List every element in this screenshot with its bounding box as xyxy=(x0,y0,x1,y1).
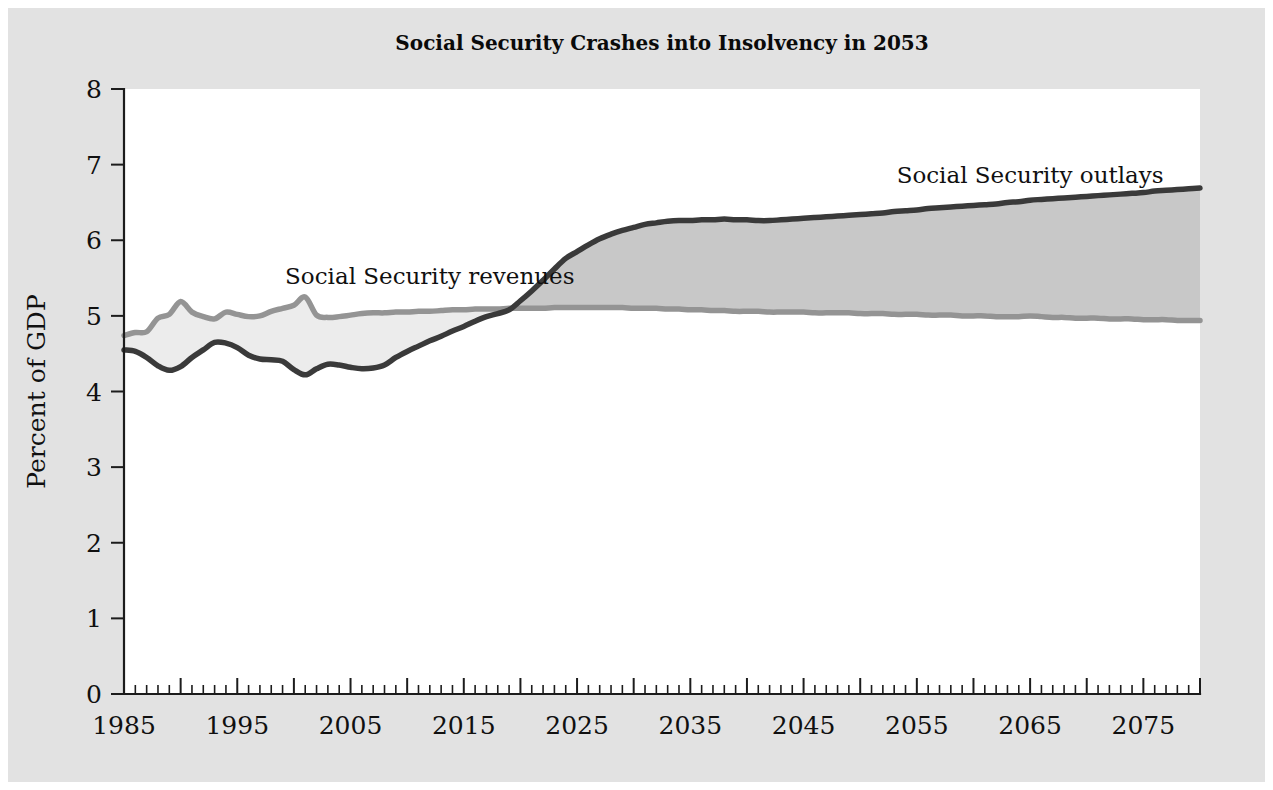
y-axis-tick-label: 3 xyxy=(86,453,102,482)
x-axis-tick-label: 2015 xyxy=(432,711,496,740)
y-axis-tick-label: 6 xyxy=(86,226,102,255)
y-axis-tick-label: 4 xyxy=(86,378,102,407)
x-axis-tick-label: 1985 xyxy=(92,711,156,740)
y-axis-tick-label: 0 xyxy=(86,680,102,709)
x-axis-tick-label: 2025 xyxy=(545,711,609,740)
y-axis-tick-label: 2 xyxy=(86,529,102,558)
x-axis-tick-label: 2065 xyxy=(998,711,1062,740)
x-axis-tick-label: 2075 xyxy=(1112,711,1176,740)
x-axis-tick-label: 2045 xyxy=(772,711,836,740)
revenues-label: Social Security revenues xyxy=(285,263,574,289)
y-axis-tick-label: 8 xyxy=(86,75,102,104)
y-axis-tick-label: 7 xyxy=(86,151,102,180)
page-title: Social Security Crashes into Insolvency … xyxy=(395,31,928,55)
x-axis-tick-label: 2035 xyxy=(659,711,723,740)
x-axis-tick-label: 2005 xyxy=(319,711,383,740)
outlays-label: Social Security outlays xyxy=(897,162,1164,188)
social-security-area-chart: 0123456781985199520052015202520352045205… xyxy=(0,0,1273,790)
x-axis-tick-label: 2055 xyxy=(885,711,949,740)
y-axis-title: Percent of GDP xyxy=(22,294,51,488)
x-axis-tick-label: 1995 xyxy=(205,711,269,740)
figure-container: 0123456781985199520052015202520352045205… xyxy=(0,0,1273,790)
y-axis-tick-label: 5 xyxy=(86,302,102,331)
y-axis-tick-label: 1 xyxy=(86,604,102,633)
